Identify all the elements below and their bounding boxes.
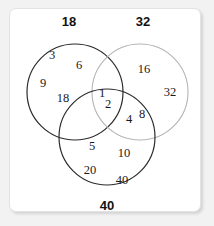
venn-number-9: 9 [40,77,46,90]
venn-number-4: 4 [126,113,132,126]
venn-number-16: 16 [138,63,151,76]
venn-number-10: 10 [118,147,131,160]
venn-number-8: 8 [139,108,145,121]
venn-number-20: 20 [84,164,97,177]
venn-number-32: 32 [164,86,177,99]
venn-number-5: 5 [89,140,95,153]
venn-number-6: 6 [76,59,82,72]
venn-number-18: 18 [57,92,70,105]
set-label-left-18: 18 [62,15,76,28]
venn-number-40: 40 [116,174,129,187]
venn-number-2: 2 [105,98,111,111]
set-label-right-32: 32 [136,15,150,28]
set-label-bottom-40: 40 [100,199,114,212]
venn-number-3: 3 [49,49,55,62]
venn-diagram-figure: 18 32 40 3 6 9 18 16 32 1 2 4 8 5 10 20 … [0,0,214,226]
venn-circles [0,0,214,226]
